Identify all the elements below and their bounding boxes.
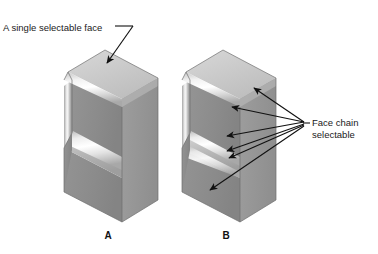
callout-single-face-arrow bbox=[107, 26, 133, 63]
callout-single-face-text: A single selectable face bbox=[3, 22, 102, 33]
part-a-label: A bbox=[104, 230, 111, 241]
figure-canvas: A single selectable face Face chain sele… bbox=[0, 0, 378, 254]
part-a-solid bbox=[64, 50, 158, 222]
technical-illustration: A single selectable face Face chain sele… bbox=[0, 0, 378, 254]
callout-face-chain-line2: selectable bbox=[312, 129, 355, 140]
callout-face-chain-line1: Face chain bbox=[312, 117, 358, 128]
part-b-label: B bbox=[222, 230, 229, 241]
